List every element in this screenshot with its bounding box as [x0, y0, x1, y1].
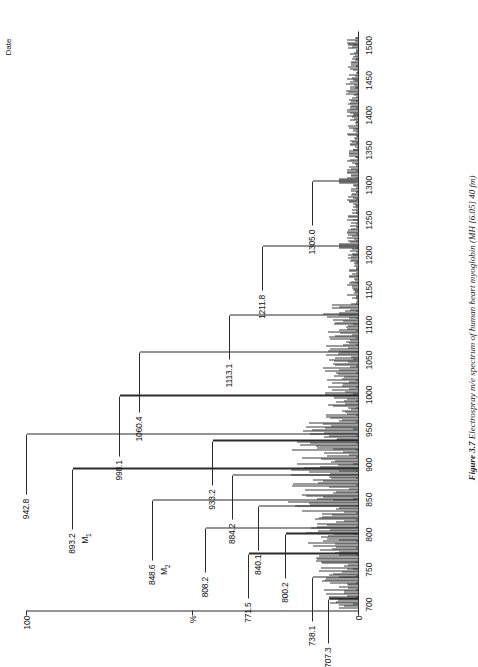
peak-label: 1113.1 — [225, 363, 234, 387]
spectrum-minor-peak — [338, 373, 359, 374]
spectrum-peak — [233, 474, 359, 476]
spectrum-peak — [140, 351, 359, 353]
spectrum-minor-peak — [349, 152, 359, 153]
spectrum-peak — [313, 576, 359, 578]
spectrum-minor-peak — [348, 361, 360, 362]
spectrum-minor-peak — [354, 84, 359, 85]
spectrum-minor-peak — [310, 442, 359, 443]
spectrum-minor-peak — [352, 209, 359, 210]
spectrum-minor-peak — [333, 573, 359, 574]
spectrum-minor-peak — [348, 47, 359, 48]
spectrum-minor-peak — [351, 256, 359, 257]
spectrum-minor-peak — [343, 320, 359, 321]
x-axis-tick-label: 750 — [365, 562, 374, 576]
spectrum-minor-peak — [353, 56, 359, 57]
spectrum-minor-peak — [349, 342, 359, 343]
y-axis-tick — [192, 610, 193, 615]
spectrum-minor-peak — [356, 272, 359, 273]
spectrum-minor-peak — [339, 369, 359, 370]
spectrum-peak — [329, 597, 359, 599]
spectrum-minor-peak — [347, 109, 359, 110]
peak-label: 998.1 — [115, 460, 124, 480]
spectrum-minor-peak — [331, 461, 359, 462]
spectrum-minor-peak — [350, 81, 359, 82]
spectrum-minor-peak — [328, 404, 359, 405]
spectrum-minor-peak — [356, 96, 359, 97]
spectrum-minor-peak — [332, 382, 359, 383]
spectrum-minor-peak — [309, 502, 359, 503]
spectrum-minor-peak — [324, 589, 359, 590]
spectrum-minor-peak — [357, 213, 359, 214]
spectrum-minor-peak — [344, 590, 359, 591]
spectrum-minor-peak — [322, 513, 359, 514]
peak-leader-line — [262, 246, 263, 290]
spectrum-minor-peak — [339, 306, 359, 307]
spectrum-minor-peak — [335, 543, 359, 544]
spectrum-minor-peak — [348, 196, 359, 197]
spectrum-minor-peak — [338, 353, 359, 354]
spectrum-minor-peak — [348, 585, 359, 586]
spectrum-minor-peak — [354, 52, 359, 53]
spectrum-minor-peak — [323, 496, 360, 497]
peak-series-annotation: M1 — [81, 533, 93, 543]
spectrum-minor-peak — [349, 200, 359, 201]
spectrum-minor-peak — [326, 416, 359, 417]
spectrum-minor-peak — [355, 55, 359, 56]
spectrum-minor-peak — [351, 64, 359, 65]
spectrum-minor-peak — [349, 269, 359, 270]
spectrum-minor-peak — [332, 389, 359, 390]
spectrum-minor-peak — [355, 80, 359, 81]
spectrum-minor-peak — [347, 328, 359, 329]
spectrum-minor-peak — [322, 562, 359, 563]
x-axis-tick-label: 900 — [365, 457, 374, 471]
x-axis-tick-label: 1000 — [365, 385, 374, 404]
spectrum-minor-peak — [344, 565, 359, 566]
spectrum-minor-peak — [329, 574, 359, 575]
spectrum-minor-peak — [346, 326, 359, 327]
x-axis-tick-label: 1400 — [365, 105, 374, 124]
spectrum-minor-peak — [350, 241, 359, 242]
spectrum-minor-peak — [355, 87, 359, 88]
spectrum-minor-peak — [306, 495, 359, 496]
spectrum-minor-peak — [350, 102, 359, 103]
spectrum-minor-peak — [350, 260, 359, 261]
spectrum-minor-peak — [356, 224, 359, 225]
x-axis-tick-label: 1200 — [365, 245, 374, 264]
spectrum-minor-peak — [353, 197, 359, 198]
spectrum-minor-peak — [347, 177, 359, 178]
spectrum-minor-peak — [348, 103, 359, 104]
spectrum-minor-peak — [328, 386, 359, 387]
spectrum-minor-peak — [333, 492, 359, 493]
spectrum-minor-peak — [349, 201, 359, 202]
spectrum-minor-peak — [317, 558, 359, 559]
spectrum-minor-peak — [339, 551, 359, 552]
spectrum-minor-peak — [351, 174, 359, 175]
spectrum-minor-peak — [350, 108, 359, 109]
spectrum-minor-peak — [355, 163, 359, 164]
peak-leader-line — [139, 352, 140, 412]
spectrum-minor-peak — [357, 157, 359, 158]
spectrum-minor-peak — [344, 592, 359, 593]
spectrum-minor-peak — [315, 518, 359, 519]
spectrum-minor-peak — [355, 263, 359, 264]
spectrum-minor-peak — [348, 234, 359, 235]
spectrum-minor-peak — [349, 488, 359, 489]
spectrum-minor-peak — [348, 325, 359, 326]
y-axis-tick-label: 0 — [355, 615, 363, 645]
spectrum-minor-peak — [350, 159, 359, 160]
spectrum-minor-peak — [288, 501, 359, 502]
spectrum-minor-peak — [350, 225, 359, 226]
spectrum-minor-peak — [337, 438, 359, 439]
spectrum-minor-peak — [344, 605, 359, 606]
spectrum-minor-peak — [326, 345, 360, 346]
spectrum-minor-peak — [342, 410, 359, 411]
figure-caption-text: Electrospray m/e spectrum of human heart… — [467, 175, 477, 439]
spectrum-peak — [230, 314, 359, 316]
spectrum-minor-peak — [332, 548, 359, 549]
spectrum-minor-peak — [332, 514, 360, 515]
spectrum-minor-peak — [339, 507, 359, 508]
spectrum-minor-peak — [323, 423, 359, 424]
spectrum-minor-peak — [355, 204, 359, 205]
spectrum-peak — [313, 180, 359, 182]
spectrum-minor-peak — [353, 130, 359, 131]
